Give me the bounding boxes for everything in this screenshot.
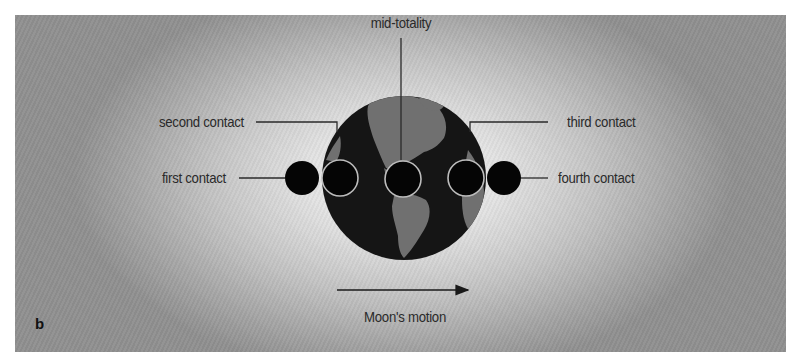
moon-second-contact <box>322 160 358 196</box>
label-third-contact: third contact <box>567 113 635 130</box>
third-contact-leader <box>470 122 548 132</box>
label-fourth-contact: fourth contact <box>558 169 634 186</box>
moon-fourth-contact <box>487 161 521 195</box>
second-contact-leader <box>256 122 337 132</box>
panel-label: b <box>35 315 44 332</box>
moon-mid-totality <box>385 161 421 197</box>
label-mid-totality: mid-totality <box>357 14 445 31</box>
label-second-contact: second contact <box>144 113 244 130</box>
moon-third-contact <box>448 160 484 196</box>
eclipse-diagram <box>0 0 797 360</box>
moon-first-contact <box>285 161 319 195</box>
label-moons-motion: Moon's motion <box>352 308 458 325</box>
label-first-contact: first contact <box>142 169 226 186</box>
